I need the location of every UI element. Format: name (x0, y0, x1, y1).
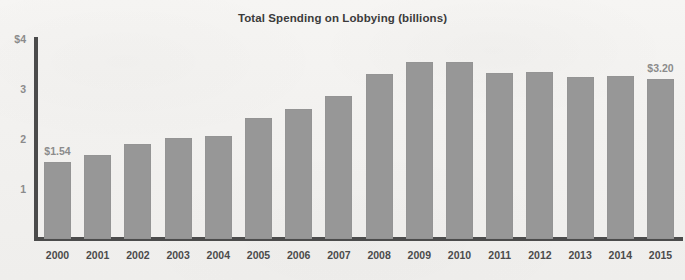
lobbying-spending-bar-chart: Total Spending on Lobbying (billions) $4… (0, 0, 685, 280)
x-axis-tick-2002: 2002 (115, 249, 161, 261)
x-axis-tick-2005: 2005 (236, 249, 282, 261)
x-axis-tick-2011: 2011 (477, 249, 523, 261)
x-axis-tick-2012: 2012 (517, 249, 563, 261)
x-axis-tick-2013: 2013 (557, 249, 603, 261)
x-axis-tick-2008: 2008 (356, 249, 402, 261)
x-axis-tick-2001: 2001 (75, 249, 121, 261)
x-axis-tick-2000: 2000 (35, 249, 81, 261)
x-axis-tick-labels: 2000200120022003200420052006200720082009… (0, 0, 685, 280)
x-axis-tick-2006: 2006 (276, 249, 322, 261)
x-axis-tick-2015: 2015 (638, 249, 684, 261)
x-axis-tick-2004: 2004 (195, 249, 241, 261)
x-axis-tick-2009: 2009 (396, 249, 442, 261)
x-axis-tick-2003: 2003 (155, 249, 201, 261)
x-axis-tick-2007: 2007 (316, 249, 362, 261)
x-axis-tick-2010: 2010 (437, 249, 483, 261)
x-axis-tick-2014: 2014 (597, 249, 643, 261)
